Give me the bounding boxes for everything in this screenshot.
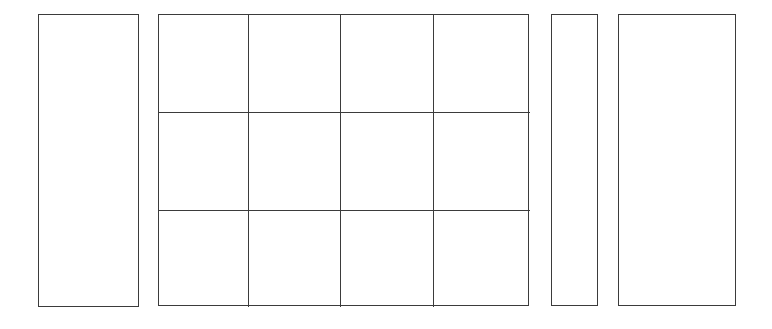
panel-narrow (551, 14, 598, 306)
cell-r1c2 (249, 15, 341, 113)
cell-r2c4 (434, 113, 530, 211)
cell-r3c2 (249, 211, 341, 307)
cell-r1c4 (434, 15, 530, 113)
cell-r1c3 (341, 15, 434, 113)
panel-grid (158, 14, 529, 306)
cell-r3c3 (341, 211, 434, 307)
figure-canvas (0, 0, 772, 329)
cell-r2c2 (249, 113, 341, 211)
cell-r3c1 (159, 211, 249, 307)
cell-r2c1 (159, 113, 249, 211)
cell-r3c4 (434, 211, 530, 307)
panel-right (618, 14, 736, 306)
panel-left (38, 14, 139, 307)
cell-r1c1 (159, 15, 249, 113)
cell-r2c3 (341, 113, 434, 211)
